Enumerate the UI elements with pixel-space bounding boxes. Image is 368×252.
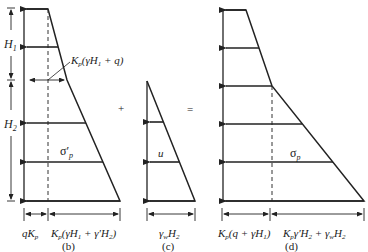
total-pressure-outline — [223, 10, 364, 201]
label-gammaw-h2: γwH2 — [159, 227, 180, 241]
label-h1: H1 — [3, 37, 17, 53]
label-qkp: qKp — [22, 227, 39, 241]
panel-d: σp Kp(q + γH1) Kpγ′H2 + γwH2 (d) — [217, 9, 364, 252]
label-kp-gamma-h2-plus-gammaw-h2: Kpγ′H2 + γwH2 — [282, 227, 346, 241]
label-kp-gamma-h: Kp(γH1 + γ′H2) — [50, 227, 116, 241]
pore-pressure-triangle — [147, 81, 195, 201]
label-sigma-p-prime: σ′p — [60, 144, 73, 160]
pressure-outline — [24, 9, 120, 201]
label-sigma-p: σp — [290, 146, 300, 162]
label-h2: H2 — [3, 117, 17, 133]
label-u: u — [158, 147, 164, 159]
panel-b: H1 H2 Kp(γH1 + q) σ′p qKp Kp(γH1 + γ′H2)… — [3, 8, 124, 252]
caption-d: (d) — [285, 240, 298, 252]
caption-b: (b) — [62, 240, 75, 252]
label-kp-q-gamma-h1: Kp(q + γH1) — [217, 227, 271, 241]
caption-c: (c) — [162, 240, 175, 252]
equals-operator: = — [187, 103, 193, 115]
label-break-pressure: Kp(γH1 + q) — [70, 54, 124, 68]
plus-operator: + — [118, 102, 124, 114]
pressure-diagram: H1 H2 Kp(γH1 + q) σ′p qKp Kp(γH1 + γ′H2)… — [0, 0, 368, 252]
